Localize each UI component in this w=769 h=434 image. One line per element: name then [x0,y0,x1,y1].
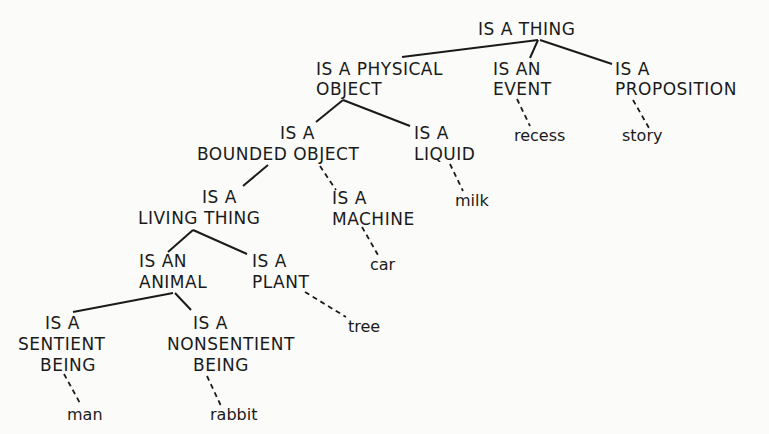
node-thing: IS A THING [478,20,575,38]
node-nonsentient-line2: NONSENTIENT [167,335,295,353]
node-nonsentient-line3: BEING [193,356,249,374]
node-physical-object-line1: IS A PHYSICAL [316,60,443,78]
node-machine-line1: IS A [332,189,367,207]
node-event-line1: IS AN [493,60,541,78]
node-proposition-line1: IS A [615,60,650,78]
hierarchy-diagram: IS A THING IS A PHYSICAL OBJECT IS AN EV… [0,0,769,434]
node-plant-line1: IS A [252,252,287,270]
node-bounded-object-line1: IS A [280,124,315,142]
leaf-rabbit: rabbit [210,406,257,424]
node-sentient-line2: SENTIENT [18,335,106,353]
leaf-car: car [370,256,395,274]
node-liquid-line2: LIQUID [414,145,475,163]
node-animal-line1: IS AN [139,252,187,270]
leaf-man: man [67,406,103,424]
node-sentient-line1: IS A [45,314,80,332]
leaf-recess: recess [514,127,565,145]
node-plant-line2: PLANT [252,273,309,291]
node-nonsentient-line1: IS A [193,314,228,332]
node-liquid-line1: IS A [414,124,449,142]
node-sentient-line3: BEING [40,356,96,374]
node-living-thing-line1: IS A [202,188,237,206]
node-bounded-object-line2: BOUNDED OBJECT [197,145,359,163]
leaf-story: story [622,127,662,145]
node-animal-line2: ANIMAL [139,273,207,291]
node-event-line2: EVENT [493,80,552,98]
node-living-thing-line2: LIVING THING [138,209,261,227]
leaf-tree: tree [348,318,380,336]
leaf-milk: milk [455,192,489,210]
node-proposition-line2: PROPOSITION [615,80,737,98]
node-physical-object-line2: OBJECT [316,80,382,98]
node-machine-line2: MACHINE [332,210,415,228]
